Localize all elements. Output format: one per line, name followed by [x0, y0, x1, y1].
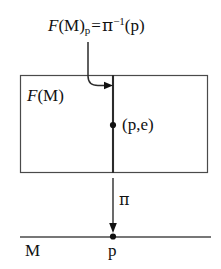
total-space-M-symbol: (M) [37, 86, 63, 105]
total-space-label: F(M) [27, 87, 64, 104]
fiber-point-dot [110, 122, 116, 128]
formula-F-symbol: F [48, 16, 58, 35]
projection-map-label: π [119, 192, 130, 208]
base-point-dot [110, 233, 116, 239]
formula-equals-sign: = [91, 16, 101, 35]
total-space-F-symbol: F [27, 86, 37, 105]
leader-arrowhead-icon [104, 82, 113, 89]
fiber-point-label: (p,e) [122, 116, 154, 133]
formula-pi-symbol: π [102, 15, 113, 35]
leader-line [88, 42, 106, 86]
base-point-label: p [108, 242, 117, 259]
formula-subscript-p: p [85, 24, 91, 36]
fiber-bundle-diagram: F(M)p=π−1(p) F(M) (p,e) π M p [0, 0, 221, 269]
fiber-formula-label: F(M)p=π−1(p) [48, 16, 145, 36]
base-manifold-label: M [25, 242, 40, 259]
formula-argument: (p) [125, 16, 145, 35]
formula-exponent: −1 [113, 15, 125, 27]
diagram-canvas [0, 0, 221, 269]
projection-arrowhead-icon [109, 223, 117, 233]
formula-M-symbol: (M) [58, 16, 84, 35]
